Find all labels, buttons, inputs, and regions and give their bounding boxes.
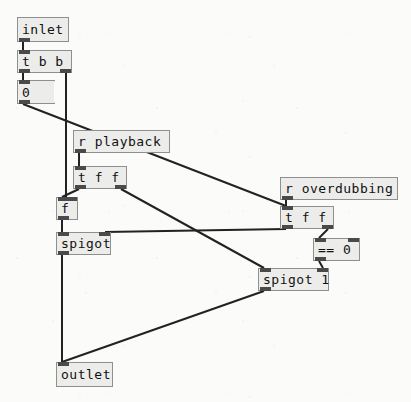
pd-box-label: outlet — [57, 368, 115, 381]
inlet-port-0[interactable] — [260, 268, 271, 272]
pd-box-label: f — [57, 202, 73, 215]
outlet-port-0[interactable] — [75, 149, 86, 153]
pd-box-r_playback[interactable]: r playback — [73, 130, 170, 153]
pd-box-msg_0[interactable]: 0 — [17, 80, 54, 104]
patch-cord[interactable] — [23, 104, 286, 206]
pd-box-label: == 0 — [314, 243, 355, 256]
pd-box-spigot_1[interactable]: spigot 1 — [258, 268, 329, 291]
outlet-port-1[interactable] — [322, 225, 333, 229]
pd-box-label: spigot — [57, 237, 115, 250]
inlet-port-0[interactable] — [58, 362, 69, 366]
pd-box-label: t f f — [281, 211, 331, 224]
outlet-port-1[interactable] — [60, 69, 71, 73]
pd-box-eq_0[interactable]: == 0 — [313, 238, 360, 261]
patch-cord[interactable] — [105, 229, 286, 232]
patch-cord[interactable] — [121, 189, 264, 268]
pd-box-outlet[interactable]: outlet — [56, 362, 113, 387]
patch-cord[interactable] — [62, 189, 79, 197]
pd-box-label: t b b — [18, 55, 68, 68]
pd-box-label: r playback — [74, 135, 165, 148]
inlet-port-0[interactable] — [58, 232, 69, 236]
inlet-port-1[interactable] — [66, 197, 77, 201]
patch-cord[interactable] — [319, 229, 328, 238]
inlet-port-0[interactable] — [19, 80, 30, 84]
pd-box-t_b_b[interactable]: t b b — [17, 50, 72, 73]
outlet-port-0[interactable] — [19, 69, 30, 73]
pd-box-label: spigot 1 — [259, 273, 334, 286]
pd-box-label: t f f — [74, 171, 124, 184]
outlet-port-0[interactable] — [260, 287, 271, 291]
pd-box-label: r overdubbing — [281, 182, 397, 195]
inlet-port-0[interactable] — [75, 166, 86, 170]
patch-cord[interactable] — [319, 261, 323, 268]
pd-box-r_overdub[interactable]: r overdubbing — [280, 177, 398, 200]
outlet-port-0[interactable] — [315, 257, 326, 261]
pd-box-t_f_f_b[interactable]: t f f — [280, 206, 334, 229]
outlet-port-0[interactable] — [58, 216, 69, 220]
patch-canvas[interactable]: inlett b b0r playbackt f fr overdubbingt… — [0, 0, 411, 402]
inlet-port-1[interactable] — [99, 232, 110, 236]
outlet-port-0[interactable] — [282, 196, 293, 200]
outlet-port-0[interactable] — [19, 100, 30, 104]
pd-box-f_obj[interactable]: f — [56, 197, 78, 220]
outlet-port-0[interactable] — [75, 185, 86, 189]
inlet-port-0[interactable] — [315, 238, 326, 242]
outlet-port-0[interactable] — [58, 251, 69, 255]
outlet-port-1[interactable] — [115, 185, 126, 189]
inlet-port-1[interactable] — [348, 238, 359, 242]
outlet-port-0[interactable] — [19, 38, 30, 42]
inlet-port-0[interactable] — [19, 50, 30, 54]
inlet-port-0[interactable] — [282, 206, 293, 210]
pd-box-t_f_f_a[interactable]: t f f — [73, 166, 127, 189]
pd-box-label: inlet — [18, 23, 68, 36]
pd-box-label: 0 — [18, 86, 34, 99]
message-box-flag-icon — [45, 80, 55, 104]
pd-box-inlet[interactable]: inlet — [17, 17, 69, 42]
inlet-port-1[interactable] — [317, 268, 328, 272]
pd-box-spigot[interactable]: spigot — [56, 232, 111, 255]
patch-cord[interactable] — [62, 291, 264, 362]
outlet-port-0[interactable] — [282, 225, 293, 229]
